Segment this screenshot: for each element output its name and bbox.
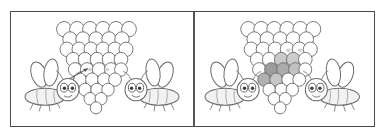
panel-left[interactable] bbox=[11, 12, 193, 126]
illustration-stage bbox=[0, 0, 386, 138]
panel-left-drawing bbox=[11, 12, 193, 126]
panel-right-drawing bbox=[195, 12, 375, 126]
panel-right[interactable] bbox=[195, 12, 375, 126]
bee-left-panel-right[interactable] bbox=[205, 58, 261, 111]
bee-right-panel-left[interactable] bbox=[123, 58, 179, 111]
comparison-frame bbox=[10, 11, 375, 127]
bee-right-panel-right[interactable] bbox=[303, 58, 359, 111]
